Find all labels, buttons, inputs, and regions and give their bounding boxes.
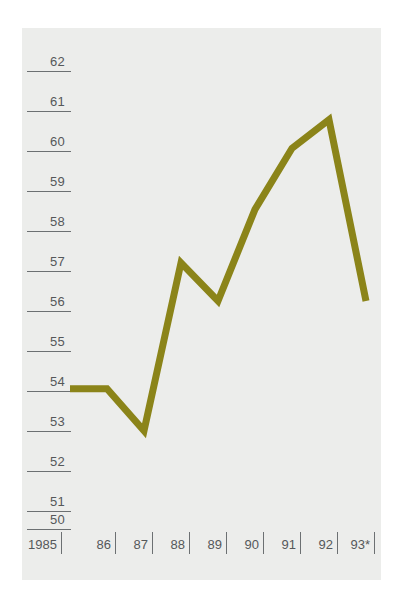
x-axis-tick-rule [226, 532, 227, 554]
x-axis-tick: 93* [339, 532, 375, 558]
y-axis-tick: 59 [27, 170, 71, 192]
x-axis-tick-rule [152, 532, 153, 554]
y-axis-tick: 62 [27, 50, 71, 72]
x-axis-tick: 92 [302, 532, 338, 558]
y-axis-tick-label: 57 [50, 255, 65, 269]
y-axis-tick-label: 59 [50, 175, 65, 189]
y-axis-tick-rule [27, 151, 71, 152]
y-axis-tick-label: 62 [50, 55, 65, 69]
x-axis-tick-rule [115, 532, 116, 554]
y-axis-tick-label: 61 [50, 95, 65, 109]
x-axis-tick-rule [189, 532, 190, 554]
x-axis-tick-rule [374, 532, 375, 554]
y-axis-tick-rule [27, 111, 71, 112]
chart-title [22, 4, 381, 18]
y-axis-tick: 50 [27, 508, 71, 530]
y-axis-tick: 53 [27, 410, 71, 432]
y-axis-tick: 56 [27, 290, 71, 312]
x-axis-tick-label: 89 [208, 538, 222, 552]
y-axis-tick-label: 53 [50, 415, 65, 429]
y-axis-tick-rule [27, 231, 71, 232]
x-axis-tick: 86 [80, 532, 116, 558]
y-axis-tick-rule [27, 351, 71, 352]
y-axis-tick: 55 [27, 330, 71, 352]
x-axis-tick-label: 86 [97, 538, 111, 552]
y-axis-tick-label: 56 [50, 295, 65, 309]
y-axis-tick: 61 [27, 90, 71, 112]
x-axis-tick: 87 [117, 532, 153, 558]
y-axis-tick-rule [27, 271, 71, 272]
x-axis-tick: 91 [265, 532, 301, 558]
y-axis-tick-label: 51 [50, 495, 65, 509]
y-axis-tick: 60 [27, 130, 71, 152]
y-axis-tick: 58 [27, 210, 71, 232]
x-axis-tick-rule [300, 532, 301, 554]
y-axis-tick-label: 55 [50, 335, 65, 349]
x-axis-tick: 90 [228, 532, 264, 558]
x-axis-tick-label: 1985 [28, 538, 57, 552]
y-axis-tick-rule [27, 191, 71, 192]
line-chart-figure: 62 61 60 59 58 57 56 55 [0, 0, 403, 608]
x-axis-tick-rule [263, 532, 264, 554]
y-axis-tick-label: 60 [50, 135, 65, 149]
x-axis-tick-label: 90 [245, 538, 259, 552]
x-axis-tick: 1985 [26, 532, 62, 558]
y-axis-tick: 57 [27, 250, 71, 272]
x-axis-tick: 89 [191, 532, 227, 558]
x-axis-tick-label: 88 [171, 538, 185, 552]
x-axis-tick-label: 92 [319, 538, 333, 552]
y-axis-tick: 52 [27, 450, 71, 472]
x-axis-tick: 88 [154, 532, 190, 558]
y-axis-tick-rule [27, 391, 71, 392]
y-axis-tick-label: 52 [50, 455, 65, 469]
y-axis-tick-rule [27, 71, 71, 72]
x-axis-tick-label: 87 [134, 538, 148, 552]
y-axis-tick-label: 58 [50, 215, 65, 229]
y-axis-tick-label: 50 [50, 513, 65, 527]
y-axis-tick-rule [27, 471, 71, 472]
x-axis-tick-label: 93* [350, 538, 370, 552]
plot-area-background [22, 28, 381, 580]
x-axis-tick-rule [337, 532, 338, 554]
x-axis-tick-rule [61, 532, 62, 554]
y-axis-tick-rule [27, 431, 71, 432]
y-axis-tick: 54 [27, 370, 71, 392]
x-axis-tick-label: 91 [282, 538, 296, 552]
y-axis-tick-rule [27, 311, 71, 312]
y-axis-tick-rule [27, 529, 71, 530]
y-axis-tick-label: 54 [50, 375, 65, 389]
